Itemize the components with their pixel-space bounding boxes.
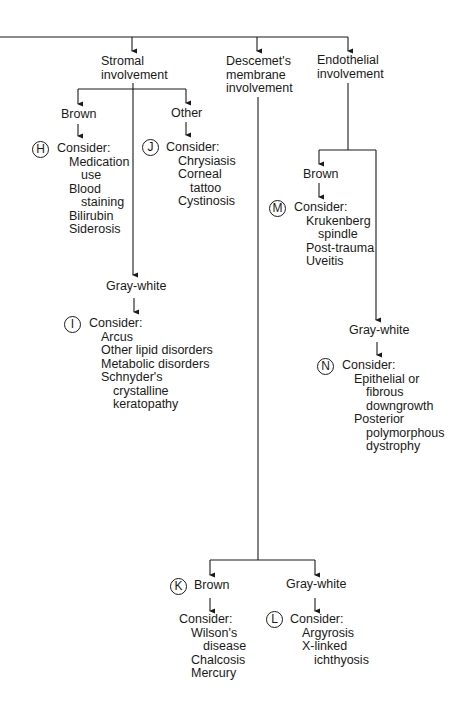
list-item: Post-trauma: [294, 242, 374, 256]
marker-k-icon: K: [170, 578, 187, 595]
marker-l-icon: L: [266, 611, 283, 628]
list-item: Argyrosis: [290, 627, 369, 641]
list-item: Corneal: [166, 168, 236, 182]
descemet-gray-white-label: Gray-white: [286, 578, 346, 592]
marker-h-icon: H: [32, 141, 49, 158]
stromal-involvement-node: Stromal involvement: [101, 55, 168, 82]
list-item: disease: [179, 640, 246, 654]
list-item: Arcus: [89, 331, 213, 345]
list-item: dystrophy: [342, 440, 445, 454]
list-item: spindle: [294, 228, 374, 242]
endothelial-gray-white-consider: Consider: Epithelial or fibrous downgrow…: [342, 359, 445, 454]
list-item: Other lipid disorders: [89, 344, 213, 358]
list-item: Bilirubin: [57, 210, 129, 224]
consider-label: Consider:: [57, 142, 129, 156]
marker-i-icon: I: [64, 316, 81, 333]
list-item: Epithelial or: [342, 373, 445, 387]
consider-label: Consider:: [342, 359, 445, 373]
list-item: Metabolic disorders: [89, 358, 213, 372]
marker-m-icon: M: [269, 200, 286, 217]
node-label-line: Stromal: [101, 55, 168, 69]
list-item: use: [57, 169, 129, 183]
list-item: Schnyder's: [89, 371, 213, 385]
descemet-brown-consider: Consider: Wilson's disease Chalcosis Mer…: [179, 613, 246, 681]
consider-label: Consider:: [290, 613, 369, 627]
endothelial-brown-consider: Consider: Krukenberg spindle Post-trauma…: [294, 201, 374, 269]
list-item: fibrous: [342, 386, 445, 400]
list-item: Chrysiasis: [166, 155, 236, 169]
stromal-other-label: Other: [171, 107, 202, 121]
endothelial-involvement-node: Endothelial involvement: [317, 54, 384, 81]
node-label-line: involvement: [226, 82, 293, 96]
marker-n-icon: N: [317, 358, 334, 375]
stromal-brown-consider: Consider: Medication use Blood staining …: [57, 142, 129, 237]
list-item: Medication: [57, 156, 129, 170]
list-item: polymorphous: [342, 427, 445, 441]
endothelial-gray-white-label: Gray-white: [349, 324, 409, 338]
list-item: Siderosis: [57, 223, 129, 237]
list-item: downgrowth: [342, 400, 445, 414]
node-label-line: Endothelial: [317, 54, 384, 68]
list-item: Blood: [57, 183, 129, 197]
consider-label: Consider:: [89, 317, 213, 331]
descemet-membrane-node: Descemet's membrane involvement: [226, 55, 293, 96]
stromal-other-consider: Consider: Chrysiasis Corneal tattoo Cyst…: [166, 141, 236, 209]
endothelial-brown-label: Brown: [303, 168, 338, 182]
list-item: Krukenberg: [294, 215, 374, 229]
node-label-line: membrane: [226, 69, 293, 83]
stromal-gray-white-label: Gray-white: [106, 280, 166, 294]
list-item: Mercury: [179, 667, 246, 681]
node-label-line: involvement: [317, 68, 384, 82]
consider-label: Consider:: [294, 201, 374, 215]
list-item: tattoo: [166, 182, 236, 196]
list-item: Uveitis: [294, 255, 374, 269]
marker-j-icon: J: [142, 139, 159, 156]
list-item: ichthyosis: [290, 654, 369, 668]
descemet-brown-label: Brown: [194, 579, 229, 593]
list-item: Wilson's: [179, 627, 246, 641]
list-item: crystalline: [89, 385, 213, 399]
node-label-line: involvement: [101, 69, 168, 83]
list-item: Posterior: [342, 413, 445, 427]
list-item: Chalcosis: [179, 654, 246, 668]
list-item: staining: [57, 196, 129, 210]
list-item: X-linked: [290, 640, 369, 654]
list-item: keratopathy: [89, 398, 213, 412]
stromal-brown-label: Brown: [61, 108, 96, 122]
node-label-line: Descemet's: [226, 55, 293, 69]
consider-label: Consider:: [179, 613, 246, 627]
list-item: Cystinosis: [166, 195, 236, 209]
stromal-gray-white-consider: Consider: Arcus Other lipid disorders Me…: [89, 317, 213, 412]
descemet-gray-white-consider: Consider: Argyrosis X-linked ichthyosis: [290, 613, 369, 667]
consider-label: Consider:: [166, 141, 236, 155]
